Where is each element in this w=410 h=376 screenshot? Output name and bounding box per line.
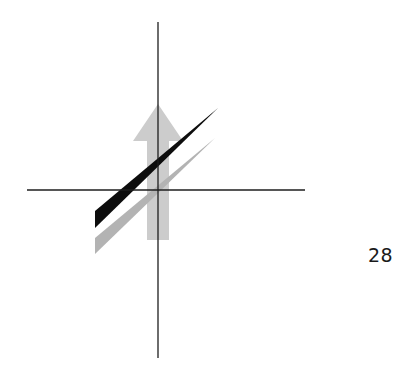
diagram-canvas: [0, 0, 410, 376]
page-number: 28: [368, 244, 393, 266]
